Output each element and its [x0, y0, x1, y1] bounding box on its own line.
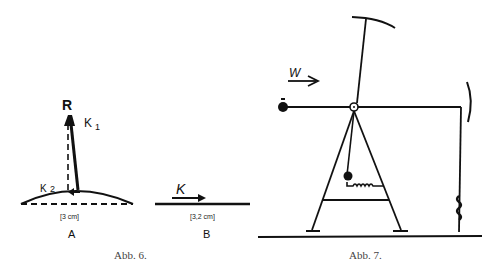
label-k2: K	[40, 183, 47, 194]
tripod-right-leg	[354, 111, 401, 230]
label-k1: K	[84, 116, 92, 130]
pendulum-mass-icon	[344, 172, 353, 181]
label-w: W	[289, 66, 302, 80]
pivot-center	[353, 106, 355, 108]
figure-6a	[21, 115, 133, 204]
measure-b: [3,2 cm]	[190, 213, 215, 221]
label-r: R	[62, 97, 72, 113]
upper-arc-plate	[352, 17, 395, 28]
inner-spring	[347, 182, 384, 186]
k1-arrowhead-icon	[64, 115, 75, 126]
counterweight-icon	[278, 102, 288, 112]
label-k: K	[176, 181, 186, 197]
right-arc-plate	[467, 82, 471, 122]
k2-arrowhead-icon	[68, 188, 74, 196]
upper-rod	[357, 19, 366, 103]
caption-fig6: Abb. 6.	[114, 249, 147, 261]
diagram-canvas: R K 1 K 2 [3 cm] A K [3,2 cm] B Abb. 6. …	[0, 0, 497, 271]
caption-fig7: Abb. 7.	[349, 249, 382, 261]
ground-line	[258, 236, 482, 237]
figure-6b	[155, 194, 250, 204]
figure-7	[258, 17, 482, 237]
panel-label-b: B	[203, 228, 210, 240]
label-k2-subscript: 2	[50, 184, 55, 194]
panel-label-a: A	[68, 228, 76, 240]
measure-a: [3 cm]	[60, 213, 79, 221]
k-arrowhead-icon	[198, 194, 206, 202]
label-k1-subscript: 1	[95, 122, 100, 132]
k1-force-arrow-shaft	[71, 124, 78, 190]
